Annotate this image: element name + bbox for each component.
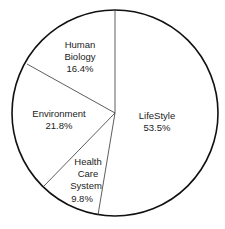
svg-text:Biology: Biology — [64, 51, 95, 62]
svg-text:Care: Care — [78, 168, 99, 179]
pie-chart: LifeStyle 53.5% Health Care System 9.8% … — [0, 0, 225, 229]
svg-text:Human: Human — [65, 39, 96, 50]
svg-text:System: System — [70, 180, 102, 191]
svg-text:21.8%: 21.8% — [46, 120, 73, 131]
svg-text:16.4%: 16.4% — [67, 63, 94, 74]
svg-text:53.5%: 53.5% — [144, 122, 171, 133]
svg-text:9.8%: 9.8% — [71, 193, 93, 204]
svg-text:LifeStyle: LifeStyle — [139, 110, 175, 121]
svg-text:Environment: Environment — [32, 108, 86, 119]
slice-label-human-biology: Human Biology 16.4% — [64, 39, 95, 74]
svg-text:Health: Health — [74, 156, 101, 167]
slice-label-lifestyle: LifeStyle 53.5% — [139, 110, 175, 133]
